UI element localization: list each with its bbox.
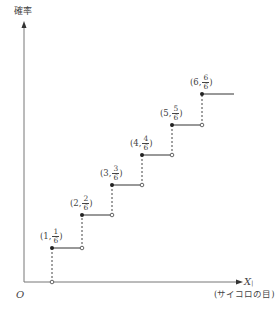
point-label-3: (3,36)	[100, 165, 123, 181]
x-axis-label: X|	[244, 277, 253, 287]
point-label-5: (5,56)	[160, 105, 183, 121]
point-label-6: (6,66)	[190, 74, 213, 90]
dotted-connectors	[52, 94, 202, 282]
point-label-1: (1,16)	[40, 228, 63, 244]
step-chart	[0, 0, 276, 311]
x-axis-sublabel: (サイコロの目)	[214, 290, 275, 299]
x-axis-arrow-icon	[236, 280, 243, 285]
point-label-2: (2,26)	[70, 195, 93, 211]
origin-label: O	[16, 290, 24, 300]
point-label-4: (4,46)	[130, 135, 153, 151]
y-axis-label: 確率	[14, 7, 32, 16]
step-segments	[52, 94, 234, 248]
y-axis-arrow-icon	[22, 21, 27, 28]
